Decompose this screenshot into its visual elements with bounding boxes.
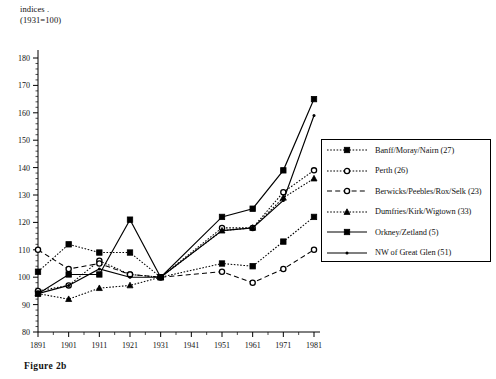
data-point-marker [66,266,71,271]
chart-series [35,96,316,296]
data-point-marker [159,276,162,279]
data-point-marker [129,276,132,279]
legend-item[interactable]: Berwicks/Peebles/Rox/Selk (23) [322,181,490,202]
x-axis-tick-label: 1931 [153,341,169,350]
y-axis-tick-label: 120 [18,218,30,227]
data-point-marker [219,214,224,219]
y-axis-tick-label: 150 [18,136,30,145]
legend-item-label: Banff/Moray/Nairn (27) [375,146,454,155]
x-axis-tick-label: 1951 [214,341,230,350]
data-point-marker [311,175,317,181]
data-point-marker [97,261,102,266]
y-axis-tick-label: 100 [18,273,30,282]
data-point-marker [344,148,349,153]
data-point-marker [97,272,102,277]
data-point-marker [97,250,102,255]
y-axis-tick-label: 80 [22,328,30,337]
legend-swatch-icon [326,143,368,157]
legend-swatch-icon [326,205,368,219]
legend-swatch-icon [326,164,368,178]
series-line [38,170,314,291]
data-point-marker [67,284,70,287]
data-point-marker [251,226,254,229]
data-point-marker [311,247,316,252]
data-point-marker [344,230,349,235]
data-point-marker [35,247,40,252]
chart-series [35,175,317,301]
series-line [38,116,314,294]
series-line [38,179,314,300]
data-point-marker [311,214,316,219]
x-axis-tick-label: 1941 [183,341,199,350]
data-point-marker [127,217,132,222]
series-line [38,217,314,277]
data-point-marker [96,285,102,291]
x-axis-tick-label: 1911 [91,341,107,350]
x-axis-tick-label: 1981 [306,341,322,350]
y-axis-tick-label: 140 [18,164,30,173]
figure-caption: Figure 2b [24,361,67,371]
data-point-marker [282,199,285,202]
data-point-marker [219,261,224,266]
legend-item-label: Dumfries/Kirk/Wigtown (33) [375,207,471,216]
x-axis-tick-label: 1971 [275,341,291,350]
legend-swatch-icon [326,184,368,198]
data-point-marker [66,242,71,247]
data-point-marker [37,292,40,295]
data-point-marker [98,267,101,270]
data-point-marker [346,251,349,254]
data-point-marker [35,269,40,274]
x-axis-tick-label: 1921 [122,341,138,350]
line-chart: 8090100110120130140150160170180189119011… [0,0,330,350]
y-axis-tick-label: 160 [18,109,30,118]
chart-series [37,114,316,295]
y-axis-tick-label: 90 [22,301,30,310]
legend-item-label: Perth (26) [375,166,408,175]
data-point-marker [344,168,349,173]
x-axis-tick-label: 1961 [245,341,261,350]
y-axis-tick-label: 130 [18,191,30,200]
plot-area: 8090100110120130140150160170180189119011… [0,0,330,350]
x-axis-tick-label: 1891 [30,341,46,350]
data-point-marker [281,266,286,271]
legend-item[interactable]: Perth (26) [322,161,490,182]
legend-item[interactable]: NW of Great Glen (51) [322,243,490,264]
legend-item-label: Orkney/Zetland (5) [375,228,438,237]
legend-item-label: Berwicks/Peebles/Rox/Selk (23) [375,187,482,196]
data-point-marker [311,168,316,173]
data-point-marker [219,269,224,274]
legend-item[interactable]: Dumfries/Kirk/Wigtown (33) [322,202,490,223]
data-point-marker [221,229,224,232]
y-axis-tick-label: 110 [18,246,30,255]
figure-2b: indices .(1931=100) 80901001101201301401… [0,0,496,379]
x-axis-tick-label: 1901 [61,341,77,350]
legend-item[interactable]: Orkney/Zetland (5) [322,222,490,243]
data-point-marker [250,264,255,269]
data-point-marker [281,239,286,244]
data-point-marker [127,250,132,255]
legend-swatch-icon [326,225,368,239]
chart-legend: Banff/Moray/Nairn (27)Perth (26)Berwicks… [321,139,491,262]
chart-series [35,214,316,280]
data-point-marker [311,96,316,101]
data-point-marker [66,272,71,277]
data-point-marker [281,168,286,173]
data-point-marker [250,280,255,285]
legend-item-label: NW of Great Glen (51) [375,248,451,257]
legend-item[interactable]: Banff/Moray/Nairn (27) [322,140,490,161]
y-axis-tick-label: 180 [18,54,30,63]
data-point-marker [344,209,350,215]
legend-swatch-icon [326,246,368,260]
data-point-marker [344,189,349,194]
y-axis-tick-label: 170 [18,81,30,90]
data-point-marker [250,206,255,211]
data-point-marker [313,114,316,117]
